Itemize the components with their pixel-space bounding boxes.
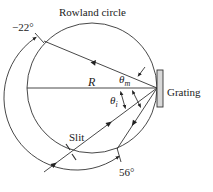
theta-m-label: θm xyxy=(119,73,130,88)
slit-mark-2 xyxy=(72,154,76,160)
diffracted-ray xyxy=(44,41,157,88)
rowland-circle-label: Rowland circle xyxy=(59,6,126,18)
grating xyxy=(157,70,163,107)
theta-i-arrow-2 xyxy=(133,92,140,106)
scale-arc xyxy=(4,38,118,170)
theta-i-label: θi xyxy=(110,94,118,109)
slit-label: Slit xyxy=(69,131,84,143)
rowland-circle-diagram: Rowland circle −22° 56° R θm θi Grating … xyxy=(0,0,213,192)
radius-label: R xyxy=(87,75,96,89)
theta-i-arrow-1 xyxy=(121,93,125,107)
ray-56 xyxy=(117,88,157,149)
theta-m-arrow xyxy=(139,67,145,75)
slit-mark-1 xyxy=(66,144,70,150)
tick-56 xyxy=(117,148,121,162)
grating-label: Grating xyxy=(167,86,201,98)
angle-end-label: 56° xyxy=(119,166,134,178)
incident-ray xyxy=(44,88,157,172)
tick-minus22 xyxy=(35,33,44,43)
angle-start-label: −22° xyxy=(12,21,34,33)
